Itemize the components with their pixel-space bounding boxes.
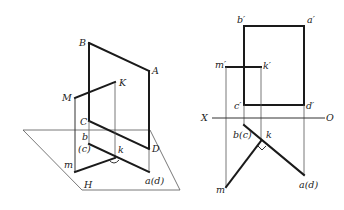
label-C: C bbox=[80, 116, 88, 127]
label-k: k bbox=[266, 129, 272, 140]
label-M: M bbox=[61, 92, 72, 103]
label-H: H bbox=[83, 179, 93, 190]
left-3d-figure: B A K M C b (c) k D m a(d) H bbox=[23, 37, 180, 190]
label-b: b bbox=[82, 131, 88, 142]
label-O: O bbox=[326, 112, 334, 123]
top-view-mk bbox=[226, 141, 261, 187]
label-k-prime: k′ bbox=[263, 60, 272, 71]
label-X: X bbox=[200, 112, 209, 123]
label-m: m bbox=[216, 184, 225, 195]
label-c-prime: c′ bbox=[234, 100, 242, 111]
label-k: k bbox=[118, 144, 124, 155]
label-b-prime: b′ bbox=[237, 14, 246, 25]
label-K: K bbox=[118, 77, 127, 88]
plane-front-view bbox=[244, 26, 304, 105]
label-m: m bbox=[64, 159, 73, 170]
label-m-prime: m′ bbox=[215, 59, 227, 70]
right-projection-figure: b′ a′ m′ k′ c′ d′ X O b(c) k m a(d) bbox=[200, 14, 334, 195]
label-D: D bbox=[151, 143, 160, 154]
label-a-prime: a′ bbox=[307, 14, 316, 25]
edge-MK bbox=[75, 82, 115, 98]
label-d-prime: d′ bbox=[306, 100, 315, 111]
label-ad: a(d) bbox=[145, 175, 164, 186]
label-c: (c) bbox=[78, 143, 91, 154]
edge-BA bbox=[89, 43, 149, 71]
right-angle-mark bbox=[258, 146, 266, 150]
label-ad: a(d) bbox=[299, 179, 318, 190]
label-A: A bbox=[151, 65, 159, 76]
label-B: B bbox=[78, 37, 86, 48]
label-bc: b(c) bbox=[233, 129, 252, 140]
projection-diagram: B A K M C b (c) k D m a(d) H b′ a′ m′ bbox=[0, 0, 344, 210]
